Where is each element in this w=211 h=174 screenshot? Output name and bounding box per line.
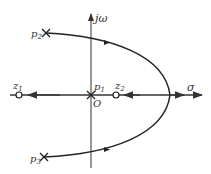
p1-label: p1 bbox=[94, 81, 105, 94]
root-locus-diagram: jω σ O p1 p2 p3 z1 z2 bbox=[0, 0, 211, 174]
p2-label: p2 bbox=[31, 28, 42, 41]
locus-branch-lower bbox=[44, 95, 170, 157]
imag-axis-label: jω bbox=[92, 12, 107, 25]
z1-label: z1 bbox=[12, 80, 23, 93]
zero-z2-marker bbox=[113, 92, 119, 98]
p3-label: p3 bbox=[30, 153, 41, 166]
real-axis-label: σ bbox=[187, 81, 195, 94]
z2-label: z2 bbox=[114, 80, 125, 93]
upper-branch-arrow bbox=[104, 40, 110, 45]
origin-label: O bbox=[93, 98, 101, 109]
